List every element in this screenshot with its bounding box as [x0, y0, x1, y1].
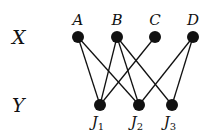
bipartite-graph: X Y ABCDJ1J2J3 [0, 0, 210, 133]
node-label-subscript: 2 [137, 121, 143, 132]
node-label-subscript: 1 [98, 121, 104, 132]
node-J2 [133, 99, 145, 111]
node-C [149, 31, 161, 43]
partition-label-x: X [10, 26, 27, 48]
node-J3 [166, 99, 178, 111]
edge-A-J1 [78, 37, 100, 105]
edges-group [78, 37, 193, 105]
node-A [72, 31, 84, 43]
node-B [111, 31, 123, 43]
edge-D-J3 [172, 37, 193, 105]
node-label-subscript: 3 [170, 121, 176, 132]
node-label-J2: J2 [128, 113, 143, 132]
node-label-A: A [71, 11, 84, 29]
node-label-J1: J1 [89, 113, 104, 132]
node-label-B: B [110, 11, 122, 29]
node-J1 [94, 99, 106, 111]
node-label-J3: J3 [161, 113, 176, 132]
node-D [187, 31, 199, 43]
node-label-C: C [149, 11, 161, 29]
node-label-D: D [186, 11, 199, 29]
partition-label-y: Y [12, 94, 27, 116]
edge-B-J3 [117, 37, 172, 105]
